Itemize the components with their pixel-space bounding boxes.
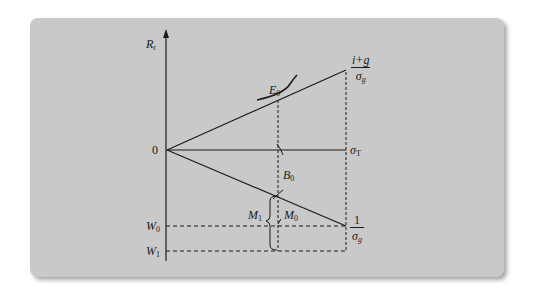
y-axis-label: Rr	[146, 38, 156, 52]
horizontal-line-end-label: σT	[350, 144, 361, 158]
e0-label: E0	[269, 84, 280, 98]
m1-brace	[266, 196, 277, 250]
upper-line	[167, 70, 346, 150]
diagram-canvas	[0, 0, 535, 297]
upper-line-end-label: i+g σg	[351, 54, 370, 84]
y-axis-arrow-icon	[163, 29, 169, 38]
m0-label: M0	[284, 209, 298, 223]
origin-label: 0	[152, 144, 158, 156]
lower-line-end-label: 1 σg	[350, 214, 364, 244]
w1-label: W1	[146, 245, 160, 259]
b0-label: B0	[283, 169, 294, 183]
w0-label: W0	[146, 220, 160, 234]
m1-label: M1	[248, 209, 262, 223]
